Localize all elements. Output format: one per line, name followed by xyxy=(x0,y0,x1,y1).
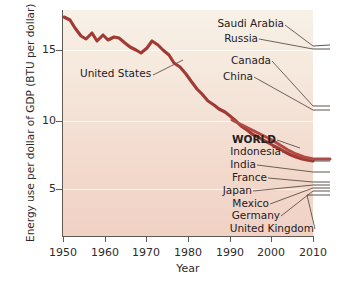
label-france: France xyxy=(206,172,267,183)
leader-japan xyxy=(253,185,313,191)
energy-intensity-chart: 15 10 5 1950 1960 1970 1980 1990 2000 20… xyxy=(0,0,344,284)
lower-country-series xyxy=(307,161,330,195)
label-russia: Russia xyxy=(206,33,258,44)
leader-saudi-arabia xyxy=(285,25,313,46)
label-mexico: Mexico xyxy=(206,198,269,209)
leader-russia xyxy=(259,39,313,49)
label-germany: Germany xyxy=(206,210,280,221)
series-saudi-arabia xyxy=(313,45,330,46)
leader-canada xyxy=(272,61,313,106)
label-world: WORLD xyxy=(206,134,276,145)
leader-france xyxy=(268,178,313,182)
label-saudi-arabia: Saudi Arabia xyxy=(206,18,284,29)
series-layer xyxy=(0,0,344,284)
label-japan: Japan xyxy=(206,185,252,196)
label-united-kingdom: United Kingdom xyxy=(196,223,314,234)
label-indonesia: Indonesia xyxy=(206,146,281,157)
label-china: China xyxy=(206,71,253,82)
label-united-states: United States xyxy=(80,68,151,79)
country-series xyxy=(313,45,330,110)
label-canada: Canada xyxy=(206,55,271,66)
label-india: India xyxy=(206,159,256,170)
leader-china xyxy=(254,77,313,110)
